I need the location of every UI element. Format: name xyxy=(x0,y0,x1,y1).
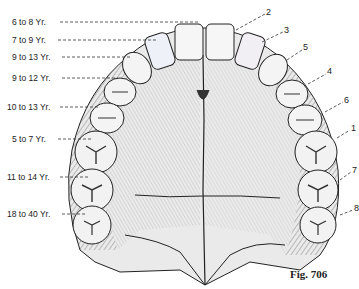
order-number-second-premolar: 6 xyxy=(344,95,349,105)
label-central-incisor-age: 6 to 8 Yr. xyxy=(12,17,46,27)
order-number-first-molar: 1 xyxy=(351,123,356,133)
order-number-canine: 5 xyxy=(303,42,308,52)
tooth-central-incisor-left xyxy=(175,24,203,60)
order-number-third-molar: 8 xyxy=(354,203,359,213)
label-canine-age: 9 to 13 Yr. xyxy=(12,52,51,62)
label-second-premolar-age: 10 to 13 Yr. xyxy=(7,102,50,112)
order-number-lateral-incisor: 3 xyxy=(284,25,289,35)
figure-caption: Fig. 706 xyxy=(290,268,327,280)
tooth-central-incisor-right xyxy=(206,24,234,60)
label-first-molar-age: 5 to 7 Yr. xyxy=(12,134,46,144)
order-number-central-incisor: 2 xyxy=(266,7,271,17)
order-number-second-molar: 7 xyxy=(352,165,357,175)
label-first-premolar-age: 9 to 12 Yr. xyxy=(12,73,51,83)
label-third-molar-age: 18 to 40 Yr. xyxy=(7,209,50,219)
label-lateral-incisor-age: 7 to 9 Yr. xyxy=(12,35,46,45)
order-number-first-premolar: 4 xyxy=(327,66,332,76)
label-second-molar-age: 11 to 14 Yr. xyxy=(7,172,50,182)
